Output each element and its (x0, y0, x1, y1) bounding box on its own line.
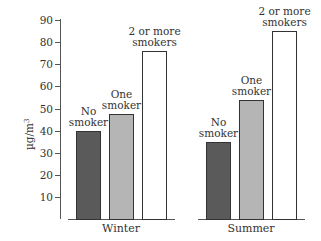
group-label-winter: Winter (81, 222, 161, 235)
label-winter-two-or-more-smokers: 2 or more smokers (120, 26, 190, 48)
y-tick-label: 60 (29, 81, 53, 91)
label-line: smoker (217, 86, 287, 97)
y-axis-label-superscript: 3 (23, 118, 31, 122)
y-tick-label: 30 (29, 148, 53, 158)
bar-winter-one-smoker (109, 114, 134, 220)
group-label-summer: Summer (211, 222, 291, 235)
y-tick-label: 90 (29, 15, 53, 25)
y-tick (55, 197, 60, 198)
bar-winter-two-or-more-smokers (142, 51, 167, 220)
y-tick (55, 131, 60, 132)
label-summer-one-smoker: One smoker (217, 75, 287, 97)
y-tick (55, 86, 60, 87)
y-tick (55, 20, 60, 21)
y-tick (55, 175, 60, 176)
bar-summer-no-smoker (206, 142, 231, 220)
label-line: No (184, 117, 254, 128)
y-tick-label: 10 (29, 192, 53, 202)
label-summer-no-smoker: No smoker (184, 117, 254, 139)
y-tick (55, 153, 60, 154)
label-line: smoker (184, 128, 254, 139)
y-tick (55, 42, 60, 43)
y-tick-label: 20 (29, 170, 53, 180)
bar-summer-two-or-more-smokers (272, 31, 297, 220)
label-line: smoker (54, 117, 124, 128)
label-winter-one-smoker: One smoker (87, 89, 157, 111)
label-line: smokers (250, 17, 320, 28)
bar-winter-no-smoker (76, 131, 101, 220)
y-tick-label: 80 (29, 37, 53, 47)
label-line: smokers (120, 37, 190, 48)
label-summer-two-or-more-smokers: 2 or more smokers (250, 6, 320, 28)
y-tick-label: 50 (29, 104, 53, 114)
y-tick (55, 64, 60, 65)
label-line: smoker (87, 100, 157, 111)
label-line: One (217, 75, 287, 86)
y-tick-label: 70 (29, 59, 53, 69)
y-tick-label: 40 (29, 126, 53, 136)
